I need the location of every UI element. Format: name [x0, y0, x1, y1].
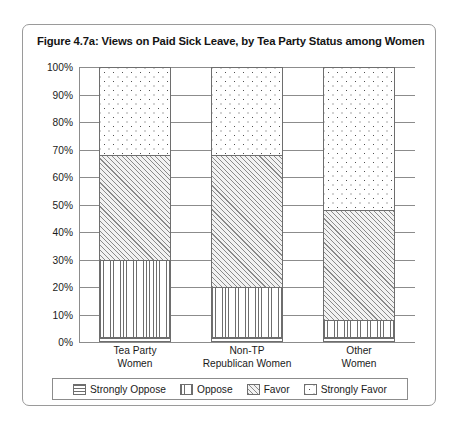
legend-item[interactable]: Strongly Favor [304, 384, 387, 395]
x-axis-category-labels: Tea PartyWomenNon-TPRepublican WomenOthe… [79, 345, 415, 379]
legend-label: Strongly Favor [321, 384, 387, 395]
y-axis-tick-label: 20% [53, 282, 73, 293]
bar-segment[interactable] [100, 260, 170, 337]
y-axis-tick-label: 100% [47, 62, 73, 73]
category-label-line: Republican Women [182, 358, 312, 371]
y-axis-tick-labels: 0%10%20%30%40%50%60%70%80%90%100% [29, 67, 73, 342]
y-axis-tick-label: 10% [53, 309, 73, 320]
legend-label: Strongly Oppose [90, 384, 166, 395]
bar-segment[interactable] [324, 320, 394, 337]
y-axis-line [79, 67, 80, 343]
bar-segment[interactable] [212, 337, 282, 343]
plot-area [79, 67, 415, 342]
legend-swatch-icon [247, 384, 260, 395]
x-axis-category-label: Tea PartyWomen [70, 345, 200, 370]
bar-column [99, 67, 171, 342]
legend-item[interactable]: Strongly Oppose [73, 384, 166, 395]
bar-column [323, 67, 395, 342]
y-axis-tick-label: 80% [53, 117, 73, 128]
legend-swatch-icon [73, 384, 86, 395]
legend-swatch-icon [304, 384, 317, 395]
legend-item[interactable]: Oppose [180, 384, 233, 395]
category-label-line: Other [294, 345, 424, 358]
bar-segment[interactable] [324, 210, 394, 320]
figure-card: Figure 4.7a: Views on Paid Sick Leave, b… [22, 24, 436, 406]
category-label-line: Tea Party [70, 345, 200, 358]
legend-label: Oppose [197, 384, 233, 395]
stacked-bar[interactable] [323, 67, 395, 342]
bar-segment[interactable] [100, 337, 170, 343]
legend-swatch-icon [180, 384, 193, 395]
y-axis-tick-label: 50% [53, 199, 73, 210]
x-axis-category-label: Non-TPRepublican Women [182, 345, 312, 370]
legend-item[interactable]: Favor [247, 384, 290, 395]
bar-segment[interactable] [324, 337, 394, 343]
y-axis-tick-label: 30% [53, 254, 73, 265]
x-axis-category-label: OtherWomen [294, 345, 424, 370]
stacked-bar[interactable] [99, 67, 171, 342]
bar-column [211, 67, 283, 342]
gridline [79, 342, 415, 343]
category-label-line: Non-TP [182, 345, 312, 358]
stacked-bar[interactable] [211, 67, 283, 342]
category-label-line: Women [70, 358, 200, 371]
y-axis-tick-label: 40% [53, 227, 73, 238]
bar-segment[interactable] [212, 287, 282, 337]
bar-segment[interactable] [100, 67, 170, 155]
y-axis-tick-label: 60% [53, 172, 73, 183]
legend-label: Favor [264, 384, 290, 395]
chart-legend: Strongly OpposeOpposeFavorStrongly Favor [52, 378, 408, 400]
bar-segment[interactable] [212, 155, 282, 287]
bar-segment[interactable] [100, 155, 170, 260]
y-axis-tick-label: 90% [53, 89, 73, 100]
bar-segment[interactable] [212, 67, 282, 155]
bar-segment[interactable] [324, 67, 394, 210]
y-axis-tick-label: 70% [53, 144, 73, 155]
category-label-line: Women [294, 358, 424, 371]
chart-plot: 0%10%20%30%40%50%60%70%80%90%100% Tea Pa… [23, 25, 437, 407]
